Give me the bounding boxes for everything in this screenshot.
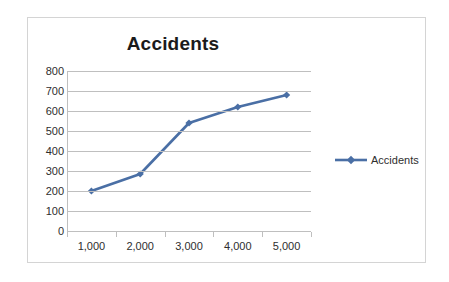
y-axis-tick-label: 0 — [30, 225, 64, 237]
legend-line-marker-icon — [333, 154, 369, 166]
gridline — [67, 211, 311, 212]
y-axis-tick-label: 200 — [30, 185, 64, 197]
y-axis-tick-label: 600 — [30, 105, 64, 117]
y-axis-tick-label: 300 — [30, 165, 64, 177]
chart-title: Accidents — [28, 33, 318, 55]
x-axis-tick-mark — [311, 232, 312, 237]
x-axis-tick-label: 3,000 — [175, 240, 203, 252]
y-axis-tick-label: 700 — [30, 85, 64, 97]
plot-area — [67, 71, 311, 231]
gridline — [67, 151, 311, 152]
data-point-marker — [234, 103, 241, 110]
x-axis-tick-mark — [67, 232, 68, 237]
gridline — [67, 131, 311, 132]
gridline — [67, 111, 311, 112]
legend-item-label: Accidents — [371, 154, 419, 166]
gridline — [67, 71, 311, 72]
x-axis-tick-label: 1,000 — [78, 240, 106, 252]
y-axis-tick-labels: 0100200300400500600700800 — [28, 71, 64, 231]
y-axis-tick-label: 800 — [30, 65, 64, 77]
gridline — [67, 191, 311, 192]
gridline — [67, 91, 311, 92]
gridline — [67, 171, 311, 172]
x-axis-tick-mark — [116, 232, 117, 237]
y-axis-tick-label: 400 — [30, 145, 64, 157]
x-axis-tick-label: 5,000 — [273, 240, 301, 252]
x-axis-tick-marks — [67, 232, 311, 238]
chart-container: Accidents 0100200300400500600700800 1,00… — [27, 17, 426, 263]
x-axis-tick-mark — [213, 232, 214, 237]
x-axis-tick-labels: 1,0002,0003,0004,0005,000 — [67, 240, 311, 256]
chart-legend: Accidents — [333, 154, 419, 166]
x-axis-tick-mark — [165, 232, 166, 237]
x-axis-tick-label: 2,000 — [126, 240, 154, 252]
x-axis-tick-mark — [262, 232, 263, 237]
series-line — [91, 95, 286, 191]
x-axis-tick-label: 4,000 — [224, 240, 252, 252]
data-point-marker — [283, 91, 290, 98]
y-axis-tick-label: 500 — [30, 125, 64, 137]
y-axis-tick-label: 100 — [30, 205, 64, 217]
